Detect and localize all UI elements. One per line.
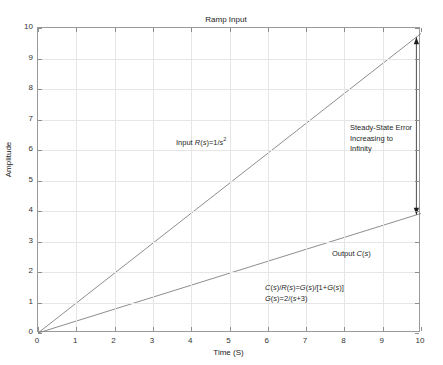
x-axis-tick	[344, 28, 345, 32]
x-tick-label: 9	[370, 336, 394, 345]
x-axis-tick	[38, 327, 39, 331]
annotation-input-label: Input R(s)=1/s2	[176, 134, 226, 148]
y-axis-tick	[38, 28, 42, 29]
x-axis-tick	[153, 28, 154, 32]
y-tick-label: 9	[11, 53, 33, 62]
gridline-horizontal	[38, 59, 419, 60]
gridline-vertical	[153, 28, 154, 331]
y-tick-label: 7	[11, 114, 33, 123]
y-tick-label: 4	[11, 205, 33, 214]
gridline-vertical	[76, 28, 77, 331]
chart-figure: Ramp Input Unity Feedback Amplitude Time…	[0, 0, 443, 365]
y-axis-tick	[38, 181, 42, 182]
y-axis-tick	[415, 89, 419, 90]
x-tick-label: 0	[25, 336, 49, 345]
gridline-horizontal	[38, 120, 419, 121]
y-axis-tick	[38, 89, 42, 90]
plot-area	[37, 27, 420, 332]
y-tick-label: 5	[11, 175, 33, 184]
gridline-horizontal	[38, 181, 419, 182]
y-tick-label: 0	[11, 327, 33, 336]
y-axis-tick	[415, 28, 419, 29]
y-axis-tick	[38, 211, 42, 212]
annotation-steady-state-error: Steady-State Error Increasing to Infinit…	[350, 123, 442, 155]
x-axis-tick	[268, 28, 269, 32]
x-axis-tick	[306, 28, 307, 32]
annotation-output-label: Output C(s)	[332, 249, 371, 259]
x-axis-tick	[230, 28, 231, 32]
x-tick-label: 8	[331, 336, 355, 345]
y-axis-tick	[38, 120, 42, 121]
gridline-vertical	[191, 28, 192, 331]
x-axis-tick	[191, 327, 192, 331]
sse-line-1: Steady-State Error	[350, 123, 442, 134]
gridline-vertical	[115, 28, 116, 331]
x-axis-tick	[230, 327, 231, 331]
gridline-vertical	[344, 28, 345, 331]
x-axis-tick	[383, 28, 384, 32]
x-axis-tick	[383, 327, 384, 331]
x-tick-label: 6	[255, 336, 279, 345]
y-axis-tick	[38, 303, 42, 304]
y-axis-tick	[415, 333, 419, 334]
gridline-horizontal	[38, 89, 419, 90]
x-axis-tick	[306, 327, 307, 331]
y-axis-tick	[38, 242, 42, 243]
sse-line-3: Infinity	[350, 144, 442, 155]
y-tick-label: 2	[11, 266, 33, 275]
x-axis-tick	[421, 28, 422, 32]
sse-line-2: Increasing to	[350, 134, 442, 145]
annotation-formulas: C(s)/R(s)=G(s)/[1+G(s)] G(s)=2/(s+3)	[265, 282, 344, 304]
y-tick-label: 10	[11, 22, 33, 31]
y-axis-tick	[415, 59, 419, 60]
y-axis-tick	[415, 242, 419, 243]
gridline-horizontal	[38, 242, 419, 243]
x-axis-tick	[191, 28, 192, 32]
x-axis-tick	[421, 327, 422, 331]
y-tick-label: 1	[11, 297, 33, 306]
x-axis-tick	[76, 327, 77, 331]
gridline-horizontal	[38, 272, 419, 273]
y-tick-label: 6	[11, 144, 33, 153]
formula-line-2: G(s)=2/(s+3)	[265, 293, 344, 304]
x-axis-tick	[268, 327, 269, 331]
x-tick-label: 4	[178, 336, 202, 345]
y-axis-tick	[415, 272, 419, 273]
x-tick-label: 2	[102, 336, 126, 345]
gridline-horizontal	[38, 211, 419, 212]
x-axis-tick	[115, 327, 116, 331]
formula-line-1: C(s)/R(s)=G(s)/[1+G(s)]	[265, 282, 344, 293]
y-axis-tick	[415, 181, 419, 182]
x-axis-tick	[115, 28, 116, 32]
x-tick-label: 10	[408, 336, 432, 345]
y-axis-tick	[415, 303, 419, 304]
y-axis-tick	[38, 333, 42, 334]
y-axis-tick	[415, 120, 419, 121]
chart-title-line1: Ramp Input	[205, 15, 246, 24]
x-tick-label: 3	[140, 336, 164, 345]
x-tick-label: 1	[63, 336, 87, 345]
x-axis-tick	[76, 28, 77, 32]
x-tick-label: 7	[293, 336, 317, 345]
y-axis-tick	[38, 272, 42, 273]
y-axis-tick	[38, 150, 42, 151]
gridline-vertical	[230, 28, 231, 331]
gridline-vertical	[383, 28, 384, 331]
annotation-input-exponent: 2	[223, 136, 226, 142]
y-tick-label: 3	[11, 236, 33, 245]
y-axis-tick	[38, 59, 42, 60]
y-tick-label: 8	[11, 83, 33, 92]
gridline-horizontal	[38, 303, 419, 304]
x-axis-tick	[153, 327, 154, 331]
x-axis-label: Time (S)	[37, 348, 420, 357]
x-tick-label: 5	[217, 336, 241, 345]
x-axis-tick	[344, 327, 345, 331]
y-axis-tick	[415, 211, 419, 212]
